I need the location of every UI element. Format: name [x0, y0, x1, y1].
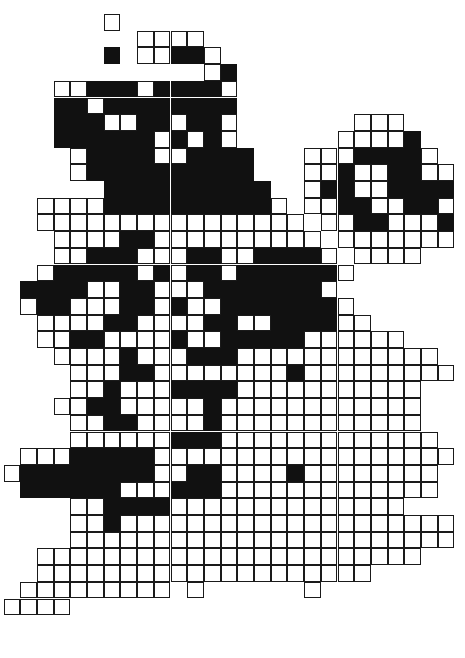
grid-cell-empty: [154, 331, 171, 348]
grid-cell-empty: [371, 465, 388, 482]
grid-cell-empty: [154, 231, 171, 248]
grid-cell-empty: [120, 565, 137, 582]
grid-cell-empty: [171, 348, 188, 365]
grid-cell-empty: [221, 81, 238, 98]
grid-cell-filled: [204, 98, 221, 115]
grid-cell-filled: [171, 482, 188, 499]
grid-cell-empty: [321, 448, 338, 465]
grid-cell-empty: [321, 515, 338, 532]
grid-cell-empty: [20, 599, 37, 616]
grid-cell-filled: [104, 248, 121, 265]
grid-cell-empty: [154, 465, 171, 482]
grid-cell-empty: [171, 548, 188, 565]
grid-cell-empty: [70, 365, 87, 382]
grid-cell-filled: [354, 198, 371, 215]
grid-cell-empty: [371, 181, 388, 198]
grid-cell-filled: [120, 231, 137, 248]
grid-cell-empty: [221, 565, 238, 582]
grid-cell-empty: [154, 415, 171, 432]
grid-cell-filled: [254, 265, 271, 282]
grid-cell-empty: [421, 432, 438, 449]
grid-cell-filled: [70, 131, 87, 148]
grid-cell-empty: [204, 448, 221, 465]
grid-cell-empty: [438, 532, 455, 549]
grid-cell-empty: [137, 532, 154, 549]
grid-cell-empty: [271, 532, 288, 549]
grid-cell-empty: [371, 231, 388, 248]
grid-cell-empty: [104, 348, 121, 365]
grid-cell-empty: [120, 114, 137, 131]
grid-cell-empty: [237, 482, 254, 499]
grid-cell-empty: [171, 315, 188, 332]
grid-cell-filled: [221, 348, 238, 365]
grid-cell-filled: [104, 164, 121, 181]
grid-cell-empty: [354, 248, 371, 265]
grid-cell-filled: [154, 98, 171, 115]
grid-cell-empty: [388, 532, 405, 549]
grid-cell-empty: [338, 214, 355, 231]
grid-cell-filled: [154, 81, 171, 98]
grid-cell-empty: [154, 315, 171, 332]
grid-cell-filled: [87, 398, 104, 415]
grid-cell-empty: [254, 515, 271, 532]
grid-cell-empty: [354, 381, 371, 398]
grid-cell-empty: [237, 565, 254, 582]
grid-cell-empty: [421, 348, 438, 365]
grid-cell-filled: [404, 148, 421, 165]
grid-cell-filled: [137, 231, 154, 248]
grid-cell-empty: [54, 331, 71, 348]
grid-cell-filled: [54, 265, 71, 282]
grid-cell-empty: [154, 131, 171, 148]
grid-cell-empty: [304, 381, 321, 398]
grid-cell-empty: [37, 548, 54, 565]
grid-cell-empty: [321, 565, 338, 582]
grid-cell-filled: [104, 81, 121, 98]
grid-cell-empty: [54, 599, 71, 616]
grid-cell-empty: [221, 214, 238, 231]
grid-cell-empty: [404, 381, 421, 398]
grid-cell-empty: [404, 482, 421, 499]
grid-cell-empty: [338, 432, 355, 449]
grid-cell-filled: [87, 465, 104, 482]
grid-cell-empty: [371, 331, 388, 348]
grid-cell-filled: [120, 181, 137, 198]
grid-cell-filled: [37, 298, 54, 315]
grid-cell-filled: [87, 148, 104, 165]
grid-cell-empty: [87, 298, 104, 315]
grid-cell-empty: [137, 265, 154, 282]
grid-cell-empty: [404, 348, 421, 365]
grid-cell-filled: [187, 248, 204, 265]
grid-cell-empty: [154, 548, 171, 565]
grid-cell-empty: [87, 198, 104, 215]
grid-cell-empty: [87, 515, 104, 532]
map-grid: [0, 0, 465, 658]
grid-cell-empty: [304, 398, 321, 415]
grid-cell-empty: [271, 415, 288, 432]
grid-cell-empty: [271, 381, 288, 398]
grid-cell-empty: [388, 131, 405, 148]
grid-cell-empty: [70, 231, 87, 248]
grid-cell-empty: [104, 14, 121, 31]
grid-cell-filled: [187, 98, 204, 115]
grid-cell-filled: [204, 315, 221, 332]
grid-cell-empty: [338, 381, 355, 398]
grid-cell-filled: [204, 198, 221, 215]
grid-cell-filled: [137, 281, 154, 298]
grid-cell-filled: [204, 398, 221, 415]
grid-cell-empty: [237, 381, 254, 398]
grid-cell-empty: [237, 398, 254, 415]
grid-cell-filled: [54, 131, 71, 148]
grid-cell-empty: [154, 348, 171, 365]
grid-cell-filled: [171, 381, 188, 398]
grid-cell-filled: [187, 114, 204, 131]
grid-cell-filled: [137, 448, 154, 465]
grid-cell-empty: [54, 348, 71, 365]
grid-cell-filled: [137, 114, 154, 131]
grid-cell-filled: [120, 148, 137, 165]
grid-cell-filled: [154, 198, 171, 215]
grid-cell-filled: [70, 98, 87, 115]
grid-cell-filled: [104, 315, 121, 332]
grid-cell-empty: [338, 148, 355, 165]
grid-cell-empty: [221, 398, 238, 415]
grid-cell-empty: [204, 214, 221, 231]
